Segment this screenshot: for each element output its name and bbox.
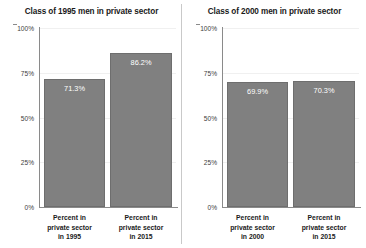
- x-label-line-1: Percent in: [217, 213, 288, 223]
- gridline-100: [223, 28, 359, 29]
- x-axis-line: [222, 207, 361, 208]
- y-tick-label-75: 75%: [21, 69, 40, 76]
- y-tick-label-50: 50%: [21, 114, 40, 121]
- y-tick-label-25: 25%: [21, 159, 40, 166]
- plot-area: 100% 75% 50% 25% 0% 71.3% 86.2%: [40, 28, 176, 207]
- bar-value-label: 70.3%: [294, 86, 354, 95]
- x-axis-line: [39, 207, 178, 208]
- bar-percent-private-sector-1995[interactable]: 71.3%: [44, 79, 105, 207]
- x-label-line-2: private sector: [34, 223, 105, 233]
- x-label-line-2: private sector: [217, 223, 288, 233]
- y-tick-label-100: 100%: [200, 25, 223, 32]
- bar-percent-private-sector-2000[interactable]: 69.9%: [227, 82, 288, 207]
- bar-chart-figure: Class of 1995 men in private sector 100%…: [0, 0, 366, 248]
- x-axis-label-2000: Percent in private sector in 2000: [217, 213, 288, 242]
- chart-panel-class-of-1995: Class of 1995 men in private sector 100%…: [0, 0, 183, 248]
- bar-value-label: 71.3%: [45, 84, 104, 93]
- y-tick-label-25: 25%: [204, 159, 223, 166]
- y-tick-label-100: 100%: [17, 25, 40, 32]
- bar-value-label: 69.9%: [228, 87, 287, 96]
- y-tick-label-0: 0%: [24, 204, 40, 211]
- plot-area: 100% 75% 50% 25% 0% 69.9% 70.3%: [223, 28, 359, 207]
- x-label-line-1: Percent in: [288, 213, 360, 223]
- x-label-line-3: in 2000: [217, 232, 288, 242]
- x-axis-label-1995: Percent in private sector in 1995: [34, 213, 105, 242]
- x-label-line-2: private sector: [288, 223, 360, 233]
- x-label-line-3: in 2015: [288, 232, 360, 242]
- y-tick-label-50: 50%: [204, 114, 223, 121]
- x-axis-label-2015: Percent in private sector in 2015: [105, 213, 177, 242]
- gridline-100: [40, 28, 176, 29]
- bar-percent-private-sector-2015[interactable]: 86.2%: [110, 53, 172, 207]
- x-label-line-3: in 1995: [34, 232, 105, 242]
- y-tick-label-75: 75%: [204, 69, 223, 76]
- panel-divider: [181, 4, 182, 244]
- y-tick-label-0: 0%: [207, 204, 223, 211]
- gridline-75: [223, 73, 359, 74]
- panel-title: Class of 2000 men in private sector: [183, 7, 366, 16]
- panel-title: Class of 1995 men in private sector: [0, 7, 183, 16]
- bar-percent-private-sector-2015[interactable]: 70.3%: [293, 81, 355, 207]
- x-label-line-1: Percent in: [34, 213, 105, 223]
- chart-panel-class-of-2000: Class of 2000 men in private sector 100%…: [183, 0, 366, 248]
- bar-value-label: 86.2%: [111, 58, 171, 67]
- x-axis-label-2015: Percent in private sector in 2015: [288, 213, 360, 242]
- x-label-line-1: Percent in: [105, 213, 177, 223]
- x-label-line-3: in 2015: [105, 232, 177, 242]
- x-label-line-2: private sector: [105, 223, 177, 233]
